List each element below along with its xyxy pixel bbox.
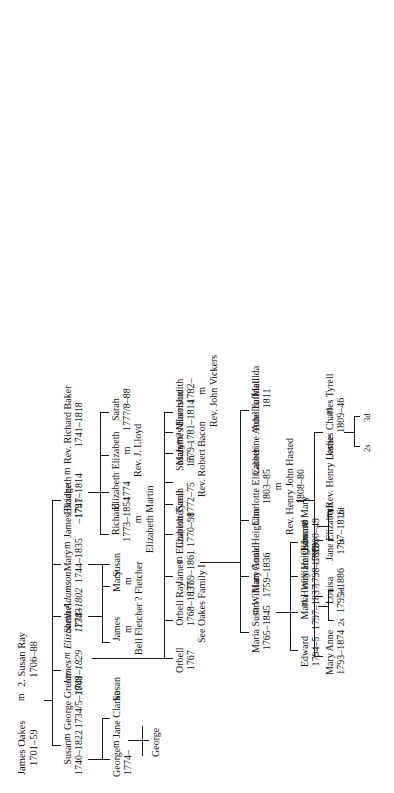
marriage-symbol-lloyd: m <box>121 424 132 477</box>
genealogy-chart-canvas: James Oakes 1701–59 m 2. Susan Ray 1706–… <box>0 0 394 793</box>
node-sarah-baker: Sarah 1777/8–88 <box>110 388 132 431</box>
spouse-name: Rev. Robert Bacon <box>196 421 207 497</box>
drop-adelina-matilda <box>240 410 249 411</box>
marriage-symbol-james-fletcher: m <box>122 603 133 655</box>
person-name: Sarah <box>110 388 121 431</box>
person-dates: 1774– <box>122 748 133 777</box>
marriage-symbol-tyrell-tuffnell: m <box>324 408 334 415</box>
person-name: Rev. Richard Baker <box>62 386 73 465</box>
tick-issue-heigham-s <box>328 620 334 621</box>
node-rev-richard-baker: Rev. Richard Baker 1741–1818 <box>62 386 84 465</box>
drop-mary <box>52 564 61 565</box>
drop-edward-gould <box>290 650 298 651</box>
drop-mary-anne-heigham <box>240 576 249 577</box>
descent-hasted <box>296 500 314 501</box>
marriage-symbol-james-iii: m <box>174 557 184 564</box>
person-dates: 1765–1845 <box>261 603 272 653</box>
person-name: James Oakes <box>16 720 28 775</box>
drop-george-iii <box>142 740 149 741</box>
person-dates: 1777/8–88 <box>121 388 132 431</box>
node-elizabeth-lloyd: Elizabeth m Rev. J. Lloyd <box>110 424 144 477</box>
node-george-iii: George <box>150 728 161 757</box>
drop-james2 <box>52 670 61 671</box>
node-louisa: Louisa 1795–1886 <box>324 568 346 613</box>
sibship-bar-g4 <box>240 411 241 633</box>
sibship-bar-george-iii <box>142 726 143 756</box>
descent-line-g1 <box>44 700 52 701</box>
person-name: Susan <box>111 553 122 577</box>
sibship-bar-green <box>102 719 103 760</box>
person-name: Louisa <box>324 568 335 613</box>
drop-james-harrison <box>164 432 173 433</box>
person-dates: 1740–1822 <box>73 730 84 775</box>
sibship-bar-hasted <box>314 433 315 657</box>
drop-susan-bacon <box>164 482 173 483</box>
node-judith: Judith 1782– m Rev. John Vickers <box>174 355 219 427</box>
person-name: George <box>111 748 122 777</box>
descent-george-jane <box>128 740 142 741</box>
tick-issue-tyrell-d <box>354 416 360 417</box>
node-james-charles-tyrell: James Charles Tyrell 1809–46 <box>324 373 346 457</box>
person-dates: 1741–1829 <box>73 650 84 695</box>
person-dates: 1797–1816 <box>335 503 346 561</box>
person-dates: 1747–1814 <box>73 473 84 518</box>
drop-sarah-oakes <box>164 504 173 505</box>
person-name: Adelina Matilda <box>250 366 261 431</box>
node-orbell: Orbell 1767 <box>174 647 196 673</box>
person-name: Elizabeth <box>62 473 73 518</box>
drop-susan-green <box>102 718 110 719</box>
spouse-name: ? Fletcher <box>133 561 144 601</box>
node-james-fletcher: James m Bell Fletcher <box>111 603 145 655</box>
drop-judith <box>164 412 173 413</box>
marriage-symbol-james2: m <box>62 652 72 659</box>
drop-elizabeth-lloyd <box>100 455 109 456</box>
person-dates: 1803–85 <box>261 438 272 535</box>
person-dates: 1800–49 <box>310 518 321 553</box>
spouse-name: Bell Fletcher <box>133 603 144 655</box>
person-dates: 1794–5 <box>310 636 321 667</box>
marriage-symbol-judith: m <box>196 355 207 427</box>
marriage-symbol-maria-susan: m <box>250 608 260 615</box>
descent-gould <box>276 612 290 613</box>
marriage-symbol-richard: m <box>132 486 143 553</box>
marriage-symbol-edward-osborne: m <box>299 520 309 527</box>
drop-maria-susan <box>240 632 249 633</box>
drop-james-fletcher <box>102 642 110 643</box>
person-name: Susan <box>111 677 122 701</box>
person-name: James <box>111 603 122 655</box>
node-edward-gould: Edward 1794–5 <box>299 636 321 667</box>
marriage-symbol-leslie: m <box>324 511 334 518</box>
issue-daughters-tyrell: 3d <box>362 414 372 423</box>
person-dates: 1774 <box>121 472 132 510</box>
sibship-bar-fletcher <box>102 565 103 643</box>
sibship-bar-gould <box>290 543 291 651</box>
node-susan-bridge: Susan <box>111 553 122 577</box>
marriage-symbol-maria-gould: m <box>299 600 309 607</box>
person-dates: 1782– <box>185 355 196 427</box>
drop-charlotte <box>164 534 173 535</box>
spouse-name: Rev. John Vickers <box>208 355 219 427</box>
marriage-symbol-hasted: m <box>272 438 283 535</box>
node-adelina-matilda: Adelina Matilda 1811 <box>250 366 272 431</box>
drop-mary-anne-hasted <box>314 656 323 657</box>
sibship-bar-oakes-g3 <box>164 413 165 659</box>
person-name: Elizabeth <box>110 424 121 477</box>
node-george-green-jr: George 1774– <box>111 748 133 777</box>
marriage-symbol-elizabeth: m <box>62 468 72 475</box>
drop-elizabeth <box>52 500 61 501</box>
issue-bar-tyrell <box>354 417 355 447</box>
marriage-symbol-mary-fletcher: m <box>122 561 133 601</box>
person-name: Edward <box>299 636 310 667</box>
person-name: Judith <box>174 355 185 427</box>
drop-james-charles-tyrell <box>314 432 323 433</box>
drop-mary-mason <box>164 453 173 454</box>
drop-susan <box>52 745 61 746</box>
person-dates: 1793–1874 <box>335 630 346 675</box>
node-mary-anne-hasted: Mary Anne 1793–1874 <box>324 630 346 675</box>
node-elizabeth-baker: Elizabeth 1774 <box>110 472 132 510</box>
node-samuel: Samuel 1743 <box>62 603 84 633</box>
spouse-name: Rev. J. Lloyd <box>132 424 143 477</box>
drop-george-green-jr <box>102 759 110 760</box>
issue-sons-heigham: 2s <box>336 618 346 626</box>
marriage-symbol-g1: m <box>16 694 26 701</box>
